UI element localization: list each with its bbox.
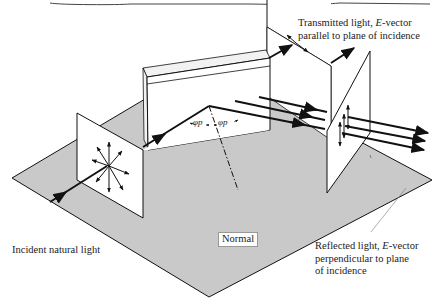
phi-p-right-label: φp (218, 117, 227, 127)
normal-label: Normal (218, 232, 258, 247)
transmitted-label-text: Transmitted light, (298, 17, 376, 28)
reflected-light-label: Reflected light, E-vector perpendicular … (315, 240, 419, 278)
phi-p-left-label: φp (193, 117, 202, 127)
reflected-label-line2: perpendicular to plane (315, 253, 409, 264)
transmitted-light-label: Transmitted light, E-vector parallel to … (298, 17, 420, 42)
top-border-fragment (50, 3, 430, 5)
reflected-label-suffix: -vector (389, 240, 419, 251)
incident-light-label: Incident natural light (12, 244, 100, 257)
reflected-label-line3: of incidence (315, 265, 367, 276)
transmitted-label-suffix: -vector (382, 17, 412, 28)
reflected-label-text: Reflected light, (315, 240, 382, 251)
transmitted-label-line2: parallel to plane of incidence (298, 30, 420, 41)
